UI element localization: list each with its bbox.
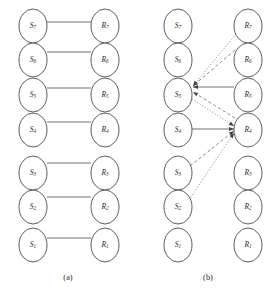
edge-b-s5-to-b-r4 bbox=[192, 99, 234, 126]
node-a-s3[interactable]: S3 bbox=[19, 156, 47, 190]
node-subscript-a-r6: 6 bbox=[106, 58, 109, 64]
node-subscript-a-r3: 3 bbox=[106, 171, 109, 177]
node-b-s5[interactable]: S5 bbox=[164, 78, 192, 112]
node-b-r5[interactable]: R5 bbox=[234, 78, 262, 112]
node-subscript-b-s1: 1 bbox=[179, 243, 182, 249]
node-b-s3[interactable]: S3 bbox=[164, 156, 192, 190]
node-subscript-a-r2: 2 bbox=[106, 205, 109, 211]
node-subscript-b-s7: 7 bbox=[179, 24, 182, 30]
node-subscript-b-s3: 3 bbox=[179, 171, 182, 177]
arrowhead-b-r4 bbox=[229, 127, 234, 131]
edge-b-s2-to-b-r4 bbox=[189, 133, 234, 200]
node-a-r2[interactable]: R2 bbox=[91, 190, 119, 224]
node-subscript-b-s6: 6 bbox=[179, 58, 182, 64]
node-subscript-b-r5: 5 bbox=[249, 93, 252, 99]
node-subscript-a-s5: 5 bbox=[34, 93, 37, 99]
node-a-r4[interactable]: R4 bbox=[91, 113, 119, 147]
node-subscript-b-s5: 5 bbox=[179, 93, 182, 99]
node-b-r1[interactable]: R1 bbox=[234, 228, 262, 262]
node-b-s2[interactable]: S2 bbox=[164, 190, 192, 224]
arrowhead-b-s5 bbox=[193, 92, 198, 96]
node-a-r7[interactable]: R7 bbox=[91, 9, 119, 43]
node-a-r3[interactable]: R3 bbox=[91, 156, 119, 190]
node-b-r7[interactable]: R7 bbox=[234, 9, 262, 43]
edges-layer bbox=[47, 22, 236, 238]
node-a-s6[interactable]: S6 bbox=[19, 43, 47, 77]
edge-b-r6-to-b-s5 bbox=[193, 50, 235, 86]
node-subscript-b-s4: 4 bbox=[179, 128, 182, 134]
node-subscript-b-s2: 2 bbox=[179, 205, 182, 211]
node-subscript-b-r6: 6 bbox=[249, 58, 252, 64]
caption-panel-a: (a) bbox=[63, 273, 73, 282]
node-subscript-b-r1: 1 bbox=[249, 243, 252, 249]
arrowhead-b-r4 bbox=[229, 122, 234, 126]
node-subscript-a-r5: 5 bbox=[106, 93, 109, 99]
node-a-s2[interactable]: S2 bbox=[19, 190, 47, 224]
node-b-r6[interactable]: R6 bbox=[234, 43, 262, 77]
node-a-r6[interactable]: R6 bbox=[91, 43, 119, 77]
node-subscript-a-s6: 6 bbox=[34, 58, 37, 64]
node-b-r2[interactable]: R2 bbox=[234, 190, 262, 224]
node-b-s7[interactable]: S7 bbox=[164, 9, 192, 43]
node-subscript-a-r1: 1 bbox=[106, 243, 109, 249]
node-subscript-b-r7: 7 bbox=[249, 24, 252, 30]
node-subscript-a-s3: 3 bbox=[34, 171, 37, 177]
node-a-s4[interactable]: S4 bbox=[19, 113, 47, 147]
node-subscript-a-s7: 7 bbox=[34, 24, 37, 30]
figure-svg: S7S6S5S4S3S2S1R7R6R5R4R3R2R1S7S6S5S4S3S2… bbox=[0, 0, 274, 300]
edge-b-r4-to-b-s5 bbox=[193, 92, 235, 118]
node-a-r5[interactable]: R5 bbox=[91, 78, 119, 112]
node-a-s7[interactable]: S7 bbox=[19, 9, 47, 43]
figure-container: S7S6S5S4S3S2S1R7R6R5R4R3R2R1S7S6S5S4S3S2… bbox=[0, 0, 274, 300]
node-b-r3[interactable]: R3 bbox=[234, 156, 262, 190]
node-b-r4[interactable]: R4 bbox=[234, 113, 262, 147]
node-b-s4[interactable]: S4 bbox=[164, 113, 192, 147]
captions-layer: (a)(b) bbox=[63, 273, 213, 282]
edge-b-s3-to-b-r4 bbox=[190, 131, 234, 166]
node-subscript-a-s4: 4 bbox=[34, 128, 37, 134]
node-subscript-b-r2: 2 bbox=[249, 205, 252, 211]
node-subscript-a-r7: 7 bbox=[106, 24, 109, 30]
node-a-r1[interactable]: R1 bbox=[91, 228, 119, 262]
node-subscript-b-r3: 3 bbox=[249, 171, 252, 177]
node-a-s1[interactable]: S1 bbox=[19, 228, 47, 262]
node-a-s5[interactable]: S5 bbox=[19, 78, 47, 112]
node-b-s1[interactable]: S1 bbox=[164, 228, 192, 262]
caption-panel-b: (b) bbox=[203, 273, 213, 282]
node-subscript-a-s2: 2 bbox=[34, 205, 37, 211]
node-subscript-a-s1: 1 bbox=[34, 243, 37, 249]
edge-b-r7-to-b-s5 bbox=[193, 34, 236, 86]
node-subscript-a-r4: 4 bbox=[106, 128, 109, 134]
node-subscript-b-r4: 4 bbox=[249, 128, 252, 134]
nodes-layer: S7S6S5S4S3S2S1R7R6R5R4R3R2R1S7S6S5S4S3S2… bbox=[19, 9, 262, 262]
node-b-s6[interactable]: S6 bbox=[164, 43, 192, 77]
